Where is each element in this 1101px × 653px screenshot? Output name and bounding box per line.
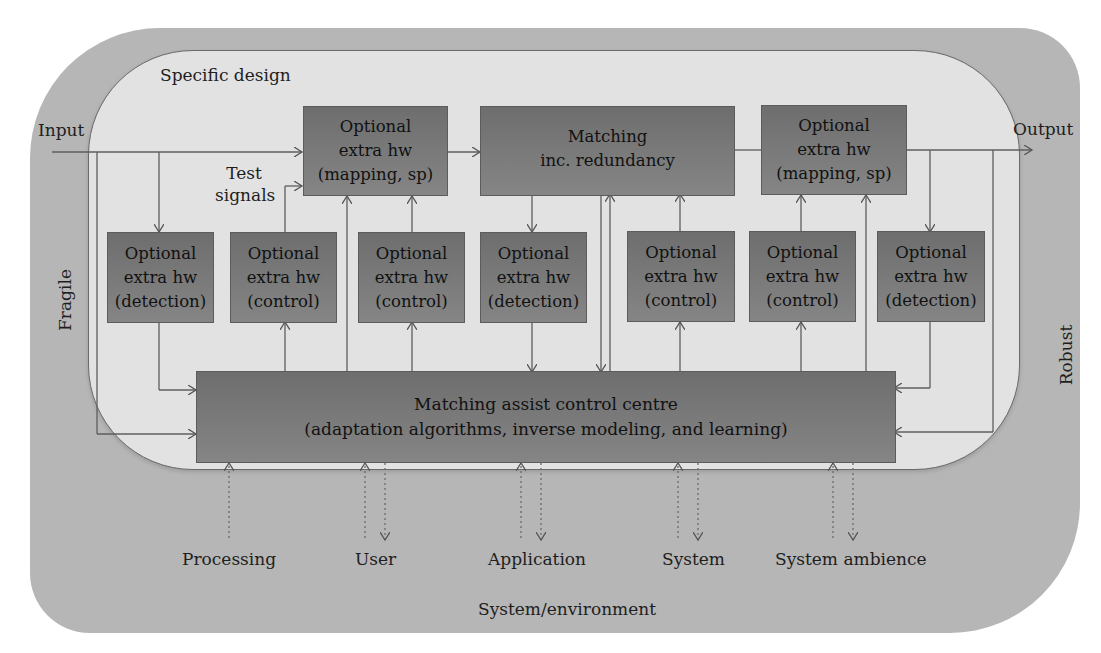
box-text: extra hw xyxy=(247,266,320,290)
output-label: Output xyxy=(1013,119,1073,139)
detection-box-3: Optionalextra hw(detection) xyxy=(877,231,985,322)
control-box-1: Optionalextra hw(control) xyxy=(230,232,337,323)
box-text: Optional xyxy=(885,241,976,265)
robust-label: Robust xyxy=(1056,325,1076,385)
box-text: (detection) xyxy=(115,290,206,314)
box-text: Optional xyxy=(247,242,320,266)
matching-assist-control-centre: Matching assist control centre(adaptatio… xyxy=(196,371,896,463)
box-text: extra hw xyxy=(776,138,891,162)
box-text: (control) xyxy=(644,289,717,313)
box-text: extra hw xyxy=(375,266,448,290)
box-text: Optional xyxy=(776,114,891,138)
mapping-box-left: Optionalextra hw(mapping, sp) xyxy=(303,106,448,196)
control-box-3: Optionalextra hw(control) xyxy=(627,231,735,322)
box-text: Optional xyxy=(644,241,717,265)
box-text: extra hw xyxy=(644,265,717,289)
system-ambience-label: System ambience xyxy=(775,549,927,569)
application-label: Application xyxy=(488,549,586,569)
box-text: extra hw xyxy=(885,265,976,289)
box-text: (detection) xyxy=(885,289,976,313)
box-text: Optional xyxy=(115,242,206,266)
box-text: extra hw xyxy=(115,266,206,290)
specific-design-label: Specific design xyxy=(160,65,291,85)
processing-label: Processing xyxy=(182,549,276,569)
system-environment-label: System/environment xyxy=(478,599,656,619)
test-signals-text: Test signals xyxy=(215,162,273,206)
control-centre-title: Matching assist control centre xyxy=(304,392,787,417)
test-signals-label: Test signals xyxy=(215,162,273,206)
matching-redundancy-box: Matchinginc. redundancy xyxy=(480,106,735,196)
box-text: (mapping, sp) xyxy=(318,163,433,187)
box-text: Optional xyxy=(488,242,579,266)
box-text: inc. redundancy xyxy=(540,149,675,173)
user-label: User xyxy=(355,549,396,569)
box-text: (detection) xyxy=(488,290,579,314)
control-box-2: Optionalextra hw(control) xyxy=(358,232,465,323)
detection-box-2: Optionalextra hw(detection) xyxy=(480,232,587,323)
system-label: System xyxy=(662,549,725,569)
box-text: Optional xyxy=(318,115,433,139)
box-text: (mapping, sp) xyxy=(776,162,891,186)
detection-box-1: Optionalextra hw(detection) xyxy=(107,232,214,323)
control-box-4: Optionalextra hw(control) xyxy=(749,231,856,322)
box-text: Optional xyxy=(766,241,839,265)
box-text: Optional xyxy=(375,242,448,266)
box-text: (control) xyxy=(247,290,320,314)
box-text: Matching xyxy=(540,125,675,149)
mapping-box-right: Optionalextra hw(mapping, sp) xyxy=(761,105,907,195)
control-centre-subtitle: (adaptation algorithms, inverse modeling… xyxy=(304,417,787,442)
box-text: extra hw xyxy=(488,266,579,290)
box-text: (control) xyxy=(766,289,839,313)
input-label: Input xyxy=(38,120,84,140)
fragile-label: Fragile xyxy=(55,269,75,331)
box-text: extra hw xyxy=(318,139,433,163)
box-text: (control) xyxy=(375,290,448,314)
box-text: extra hw xyxy=(766,265,839,289)
